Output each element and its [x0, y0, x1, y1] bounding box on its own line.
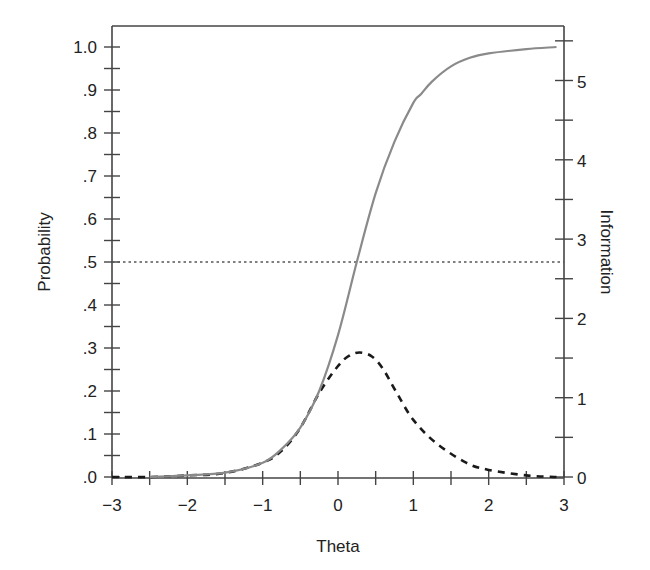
x-tick-label: −2	[178, 496, 197, 515]
x-tick-label: −1	[253, 496, 272, 515]
y-tick-label: .7	[83, 167, 97, 186]
x-axis-title: Theta	[316, 537, 360, 556]
x-tick-label: 1	[409, 496, 418, 515]
y-tick-label: .3	[83, 339, 97, 358]
y2-tick-label: 1	[577, 390, 586, 409]
y2-tick-label: 2	[577, 310, 586, 329]
information-curve	[112, 352, 557, 477]
y2-tick-label: 4	[577, 152, 586, 171]
y-axis-right-title: Information	[597, 209, 616, 294]
probability-curve	[150, 47, 557, 477]
y-tick-label: .2	[83, 382, 97, 401]
x-tick-label: 3	[559, 496, 568, 515]
x-tick-label: 2	[484, 496, 493, 515]
y-tick-label: 1.0	[73, 38, 97, 57]
y-tick-label: .9	[83, 81, 97, 100]
y-tick-label: .6	[83, 210, 97, 229]
y-tick-label: .0	[83, 468, 97, 487]
y-axis-right-ticks: 012345	[555, 41, 586, 488]
y2-tick-label: 3	[577, 231, 586, 250]
y2-tick-label: 5	[577, 73, 586, 92]
y-tick-label: .8	[83, 124, 97, 143]
item-characteristic-chart: −3−2−10123 .0.1.2.3.4.5.6.7.8.91.0 01234…	[0, 0, 650, 570]
plot-frame	[112, 26, 564, 478]
x-tick-label: 0	[333, 496, 342, 515]
y-tick-label: .5	[83, 253, 97, 272]
y-tick-label: .1	[83, 425, 97, 444]
y-axis-left-title: Probability	[35, 212, 54, 292]
x-tick-label: −3	[102, 496, 121, 515]
y2-tick-label: 0	[577, 469, 586, 488]
y-tick-label: .4	[83, 296, 97, 315]
